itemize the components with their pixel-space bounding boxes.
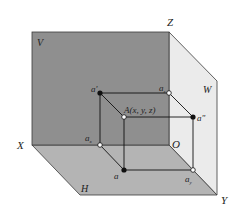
label-a: a xyxy=(114,171,119,181)
label-a-z-sub: z xyxy=(163,89,166,94)
axis-label-x: X xyxy=(16,139,25,151)
axis-label-z: Z xyxy=(167,16,174,28)
point-a-x xyxy=(98,143,103,148)
v-plane xyxy=(32,32,169,145)
plane-label-h: H xyxy=(80,183,89,194)
label-A: A(x, y, z) xyxy=(123,105,156,115)
label-a-double-prime: a" xyxy=(197,113,206,123)
point-a-y xyxy=(191,168,196,173)
point-a-z xyxy=(167,91,172,96)
point-a-prime xyxy=(97,90,102,95)
point-a xyxy=(121,167,126,172)
point-A xyxy=(122,115,127,120)
axis-label-y: Y xyxy=(221,194,229,206)
origin-label: O xyxy=(172,138,180,150)
point-a-double-prime xyxy=(190,114,195,119)
label-a-prime: a' xyxy=(91,84,99,94)
projection-diagram: Z X Y O V W H a' A(x, y, z) a" a az ax a… xyxy=(0,0,241,224)
